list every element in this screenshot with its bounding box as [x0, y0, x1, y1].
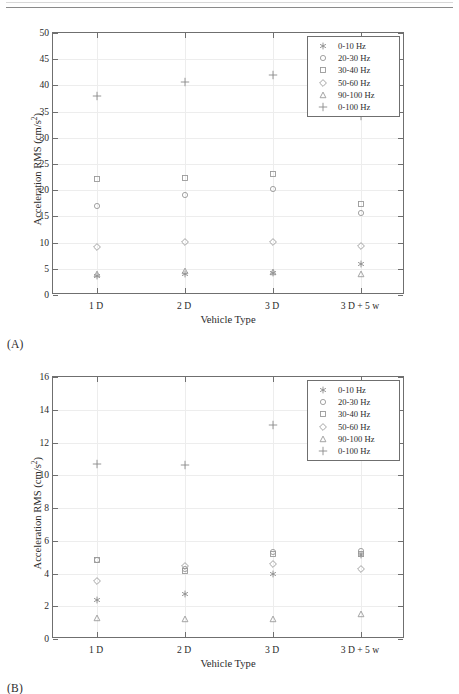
- x-axis-tick: [273, 377, 274, 382]
- y-axis-tick: [398, 190, 403, 191]
- square-marker: [312, 408, 334, 420]
- y-axis-tick: [53, 269, 58, 270]
- y-axis-tick: [398, 164, 403, 165]
- legend-label: 20-30 Hz: [334, 53, 370, 63]
- asterisk-marker: [312, 40, 334, 52]
- x-axis-tick: [97, 377, 98, 382]
- y-axis-tick: [53, 164, 58, 165]
- x-axis-tick: [97, 632, 98, 637]
- y-axis-tick: [53, 443, 58, 444]
- y-axis-tick-label: 5: [44, 262, 49, 273]
- y-axis-tick-label: 4: [44, 567, 49, 578]
- x-axis-tick-label: 3 D: [265, 644, 279, 655]
- circle-marker: [312, 52, 334, 64]
- triangle-marker: [312, 433, 334, 445]
- y-axis-tick: [398, 216, 403, 217]
- x-axis-tick: [361, 288, 362, 293]
- y-axis-tick: [398, 269, 403, 270]
- gridline-vertical: [97, 377, 98, 637]
- legend-item: 20-30 Hz: [312, 52, 393, 64]
- square-marker-glyph: [320, 67, 327, 74]
- y-axis-title-tail-b: ): [32, 457, 43, 461]
- gridline-vertical: [273, 33, 274, 293]
- legend-label: 0-10 Hz: [334, 385, 366, 395]
- x-axis-tick-label: 1 D: [89, 644, 103, 655]
- y-axis-tick: [53, 639, 58, 640]
- y-axis-tick: [53, 59, 58, 60]
- gridline-horizontal: [53, 574, 403, 575]
- square-marker: [312, 64, 334, 76]
- y-axis-tick: [398, 541, 403, 542]
- y-axis-tick: [53, 85, 58, 86]
- y-axis-tick: [398, 639, 403, 640]
- legend-item: 0-100 Hz: [312, 101, 393, 113]
- x-axis-tick: [185, 288, 186, 293]
- legend-item: 90-100 Hz: [312, 433, 393, 445]
- y-axis-title-text-b: Acceleration RMS (cm/s: [32, 464, 43, 569]
- circle-marker: [312, 396, 334, 408]
- gridline-horizontal: [53, 164, 403, 165]
- x-axis-tick-label: 3 D: [265, 300, 279, 311]
- y-axis-tick: [398, 508, 403, 509]
- y-axis-tick: [53, 541, 58, 542]
- legend-label: 0-100 Hz: [334, 102, 370, 112]
- x-axis-labels-a: 1 D2 D3 D3 D + 5 w: [52, 298, 404, 312]
- legend-item: 30-40 Hz: [312, 408, 393, 420]
- x-axis-tick: [185, 377, 186, 382]
- diamond-marker-glyph: [319, 423, 327, 431]
- legend-item: 50-60 Hz: [312, 77, 393, 89]
- y-axis-tick: [53, 295, 58, 296]
- legend-item: 0-10 Hz: [312, 384, 393, 396]
- gridline-horizontal: [53, 606, 403, 607]
- y-axis-tick: [398, 606, 403, 607]
- y-axis-tick: [53, 508, 58, 509]
- asterisk-marker-glyph: [319, 42, 327, 50]
- y-axis-tick: [398, 33, 403, 34]
- y-axis-tick: [398, 243, 403, 244]
- x-axis-tick: [361, 632, 362, 637]
- plus-marker: [312, 101, 334, 113]
- y-axis-tick: [398, 574, 403, 575]
- y-axis-title-sup-b: 2: [31, 461, 39, 465]
- y-axis-tick-label: 50: [39, 27, 49, 38]
- triangle-marker-glyph: [319, 91, 326, 98]
- gridline-horizontal: [53, 541, 403, 542]
- y-axis-tick: [53, 377, 58, 378]
- x-axis-tick-label: 2 D: [177, 644, 191, 655]
- y-axis-tick: [53, 138, 58, 139]
- gridline-horizontal: [53, 216, 403, 217]
- triangle-marker-glyph: [319, 435, 326, 442]
- legend-label: 90-100 Hz: [334, 90, 375, 100]
- circle-marker-glyph: [319, 399, 326, 406]
- asterisk-marker: [312, 384, 334, 396]
- y-axis-tick: [398, 377, 403, 378]
- x-axis-tick-label: 3 D + 5 w: [341, 300, 379, 311]
- legend-b: 0-10 Hz20-30 Hz30-40 Hz50-60 Hz90-100 Hz…: [307, 380, 400, 461]
- x-axis-tick-label: 1 D: [89, 300, 103, 311]
- y-axis-title-b: Acceleration RMS (cm/s2): [31, 408, 44, 618]
- y-axis-tick-label: 16: [39, 371, 49, 382]
- y-axis-tick: [53, 410, 58, 411]
- legend-item: 20-30 Hz: [312, 396, 393, 408]
- y-axis-tick: [398, 475, 403, 476]
- y-axis-tick: [398, 138, 403, 139]
- x-axis-labels-b: 1 D2 D3 D3 D + 5 w: [52, 642, 404, 656]
- gridline-horizontal: [53, 269, 403, 270]
- gridline-vertical: [97, 33, 98, 293]
- gridline-horizontal: [53, 138, 403, 139]
- y-axis-title-text-a: Acceleration RMS (cm/s: [32, 120, 43, 225]
- plus-marker-glyph: [319, 103, 327, 111]
- legend-label: 20-30 Hz: [334, 397, 370, 407]
- x-axis-tick: [185, 33, 186, 38]
- x-axis-title-b: Vehicle Type: [52, 658, 404, 669]
- legend-item: 90-100 Hz: [312, 89, 393, 101]
- legend-item: 0-10 Hz: [312, 40, 393, 52]
- y-axis-tick: [53, 243, 58, 244]
- y-axis-tick-label: 8: [44, 502, 49, 513]
- plus-marker-glyph: [319, 447, 327, 455]
- y-axis-tick: [53, 33, 58, 34]
- legend-label: 30-40 Hz: [334, 65, 370, 75]
- panel-label-b: (B): [7, 682, 23, 694]
- diamond-marker: [312, 421, 334, 433]
- legend-label: 0-10 Hz: [334, 41, 366, 51]
